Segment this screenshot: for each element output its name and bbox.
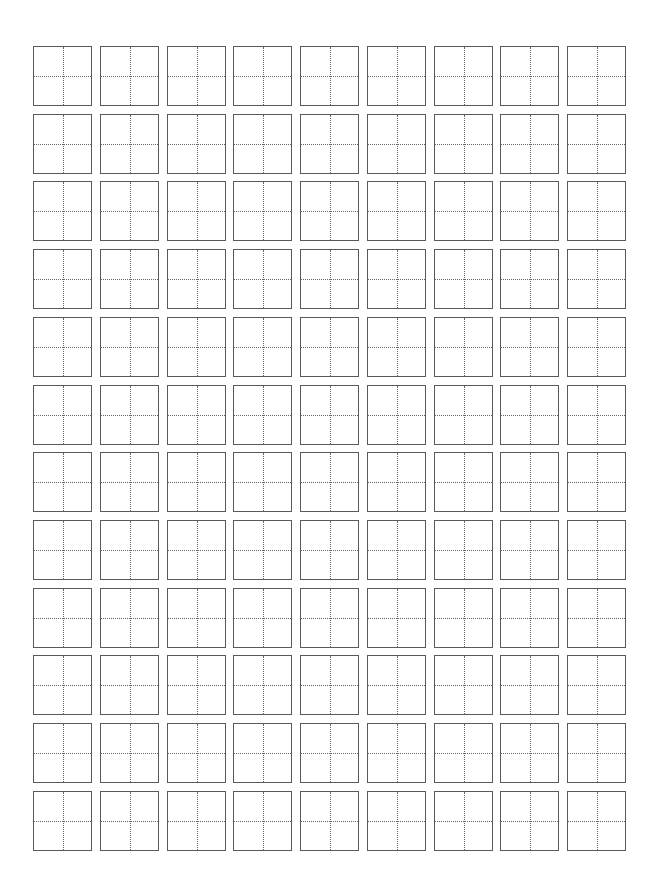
horizontal-guide-line <box>435 685 492 686</box>
horizontal-guide-line <box>501 685 558 686</box>
horizontal-guide-line <box>501 482 558 483</box>
grid-cell <box>167 655 226 715</box>
horizontal-guide-line <box>568 550 625 551</box>
grid-cell <box>434 317 493 377</box>
grid-cell <box>300 317 359 377</box>
grid-cell <box>300 452 359 512</box>
grid-cell <box>233 452 292 512</box>
grid-cell <box>434 520 493 580</box>
horizontal-guide-line <box>101 550 158 551</box>
grid-cell <box>500 46 559 106</box>
grid-cell <box>500 317 559 377</box>
grid-cell <box>500 181 559 241</box>
horizontal-guide-line <box>301 279 358 280</box>
horizontal-guide-line <box>568 821 625 822</box>
grid-cell <box>233 588 292 648</box>
horizontal-guide-line <box>301 482 358 483</box>
grid-cell <box>233 723 292 783</box>
horizontal-guide-line <box>368 144 425 145</box>
horizontal-guide-line <box>234 482 291 483</box>
grid-cell <box>33 655 92 715</box>
grid-cell <box>300 723 359 783</box>
horizontal-guide-line <box>34 550 91 551</box>
grid-cell <box>33 317 92 377</box>
grid-cell <box>100 452 159 512</box>
horizontal-guide-line <box>101 347 158 348</box>
grid-cell <box>367 723 426 783</box>
grid-cell <box>567 723 626 783</box>
horizontal-guide-line <box>168 821 225 822</box>
grid-cell <box>434 791 493 851</box>
horizontal-guide-line <box>168 685 225 686</box>
grid-cell <box>500 114 559 174</box>
horizontal-guide-line <box>234 76 291 77</box>
grid-cell <box>434 655 493 715</box>
grid-cell <box>367 588 426 648</box>
horizontal-guide-line <box>301 821 358 822</box>
horizontal-guide-line <box>301 618 358 619</box>
grid-cell <box>567 452 626 512</box>
horizontal-guide-line <box>101 482 158 483</box>
grid-cell <box>33 452 92 512</box>
grid-cell <box>367 114 426 174</box>
horizontal-guide-line <box>368 685 425 686</box>
grid-cell <box>33 520 92 580</box>
horizontal-guide-line <box>301 144 358 145</box>
grid-cell <box>567 181 626 241</box>
grid-cell <box>567 385 626 445</box>
horizontal-guide-line <box>501 753 558 754</box>
grid-cell <box>500 385 559 445</box>
grid-cell <box>300 520 359 580</box>
horizontal-guide-line <box>168 347 225 348</box>
grid-cell <box>167 181 226 241</box>
horizontal-guide-line <box>368 550 425 551</box>
grid-cell <box>300 385 359 445</box>
grid-cell <box>567 317 626 377</box>
grid-cell <box>500 655 559 715</box>
grid-cell <box>100 385 159 445</box>
grid-cell <box>434 588 493 648</box>
grid-cell <box>300 46 359 106</box>
grid-cell <box>33 114 92 174</box>
grid-cell <box>100 46 159 106</box>
grid-cell <box>33 249 92 309</box>
grid-cell <box>367 46 426 106</box>
horizontal-guide-line <box>168 482 225 483</box>
grid-cell <box>233 181 292 241</box>
grid-cell <box>367 452 426 512</box>
grid-cell <box>367 317 426 377</box>
grid-cell <box>167 791 226 851</box>
horizontal-guide-line <box>568 685 625 686</box>
horizontal-guide-line <box>234 347 291 348</box>
grid-cell <box>167 385 226 445</box>
horizontal-guide-line <box>101 685 158 686</box>
horizontal-guide-line <box>501 550 558 551</box>
horizontal-guide-line <box>368 347 425 348</box>
grid-cell <box>300 588 359 648</box>
horizontal-guide-line <box>234 144 291 145</box>
grid-cell <box>500 249 559 309</box>
grid-cell <box>500 723 559 783</box>
horizontal-guide-line <box>568 618 625 619</box>
horizontal-guide-line <box>101 821 158 822</box>
grid-cell <box>100 520 159 580</box>
horizontal-guide-line <box>435 821 492 822</box>
grid-cell <box>233 385 292 445</box>
horizontal-guide-line <box>568 753 625 754</box>
horizontal-guide-line <box>501 144 558 145</box>
horizontal-guide-line <box>301 76 358 77</box>
grid-cell <box>367 520 426 580</box>
grid-cell <box>167 588 226 648</box>
horizontal-guide-line <box>568 211 625 212</box>
horizontal-guide-line <box>34 618 91 619</box>
horizontal-guide-line <box>34 211 91 212</box>
horizontal-guide-line <box>101 144 158 145</box>
horizontal-guide-line <box>568 144 625 145</box>
horizontal-guide-line <box>501 618 558 619</box>
horizontal-guide-line <box>101 279 158 280</box>
horizontal-guide-line <box>568 279 625 280</box>
horizontal-guide-line <box>435 482 492 483</box>
horizontal-guide-line <box>435 753 492 754</box>
horizontal-guide-line <box>368 76 425 77</box>
horizontal-guide-line <box>234 821 291 822</box>
